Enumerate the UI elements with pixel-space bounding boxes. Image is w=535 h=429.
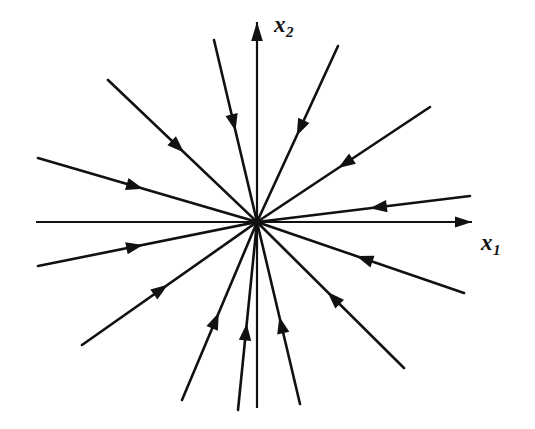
trajectory-arrowhead <box>125 242 143 254</box>
trajectory-ray <box>257 222 300 404</box>
trajectory-arrowhead <box>297 118 310 136</box>
equilibrium-point <box>254 219 260 225</box>
trajectory-ray <box>238 222 257 410</box>
phase-portrait-canvas <box>0 0 535 429</box>
trajectory-arrowhead <box>206 313 218 331</box>
trajectory-arrowhead <box>150 285 167 300</box>
trajectory-arrowhead <box>338 153 356 168</box>
x2-label-subscript: 2 <box>286 24 294 40</box>
x2-axis-label: x2 <box>274 13 294 40</box>
trajectory-arrowhead <box>370 200 388 212</box>
x1-label-subscript: 1 <box>493 242 501 258</box>
trajectory-arrowhead <box>239 324 251 342</box>
x1-label-base: x <box>481 230 493 255</box>
trajectory-arrowhead <box>125 178 143 190</box>
trajectories-group <box>38 40 470 410</box>
x2-axis-arrowhead <box>251 22 263 41</box>
trajectory-arrowhead <box>356 256 374 268</box>
x2-label-base: x <box>274 12 286 37</box>
phase-portrait-figure: x2 x1 <box>0 0 535 429</box>
axes-group <box>36 22 472 408</box>
trajectory-arrowhead <box>277 317 289 335</box>
x1-axis-arrowhead <box>455 216 472 227</box>
x1-axis-label: x1 <box>481 231 501 258</box>
